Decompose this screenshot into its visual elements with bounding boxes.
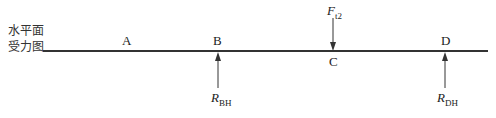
arrow-up-icon (213, 52, 223, 88)
diagram-title: 水平面 受力图 (8, 23, 44, 55)
point-b-label: B (213, 33, 222, 49)
title-line-1: 水平面 (8, 23, 44, 39)
force-rbh-label: RBH (211, 90, 231, 108)
point-d-label: D (441, 33, 450, 49)
arrow-up-icon (440, 52, 450, 88)
arrow-down-icon (328, 18, 338, 51)
shaft-beam (43, 50, 488, 52)
title-line-2: 受力图 (8, 39, 44, 55)
point-a-label: A (122, 33, 131, 49)
force-rdh-label: RDH (437, 90, 458, 108)
point-c-label: C (329, 54, 338, 70)
